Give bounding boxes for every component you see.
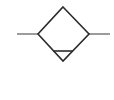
diagram-canvas xyxy=(0,0,114,100)
filter-diamond xyxy=(38,7,89,61)
filter-symbol xyxy=(0,0,114,100)
